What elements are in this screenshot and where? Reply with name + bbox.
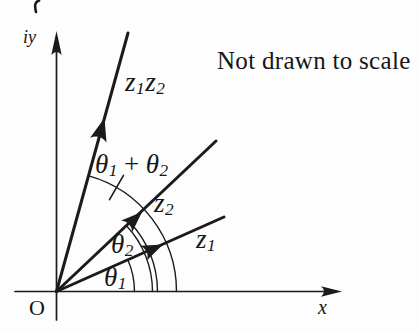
theta-sum-label: θ1+θ2 — [95, 150, 169, 180]
complex-plane-figure: Not drawn to scale iy x O z1z2 z2 z1 θ1+… — [0, 0, 418, 333]
x-axis-label: x — [318, 296, 327, 318]
not-to-scale-note: Not drawn to scale — [217, 47, 411, 75]
theta2-label: θ2 — [111, 230, 134, 260]
z1z2-arrow-icon — [90, 116, 113, 143]
theta1-label: θ1 — [104, 263, 127, 293]
theta1-arc — [128, 260, 135, 292]
z1-label: z1 — [196, 225, 216, 255]
page-artifact — [35, 1, 39, 13]
origin-label: O — [29, 296, 45, 320]
z1z2-label: z1z2 — [125, 68, 165, 98]
plus-sign: + — [124, 149, 140, 179]
y-axis-arrow-icon — [51, 31, 61, 55]
y-axis-label: iy — [23, 28, 36, 48]
z2-label: z2 — [154, 189, 174, 219]
